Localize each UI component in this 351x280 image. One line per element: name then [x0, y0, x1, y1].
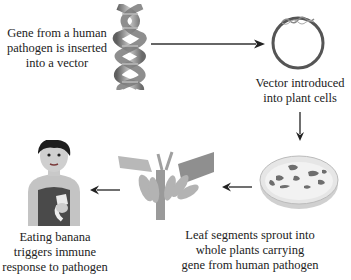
arrow-left-icon — [221, 181, 253, 193]
vector-label-line-1: Vector introduced — [250, 76, 350, 91]
person-label-line-3: response to pathogen — [0, 260, 110, 275]
arrow-right-icon — [150, 38, 266, 50]
plant-label: Leaf segments sprout into whole plants c… — [160, 228, 340, 273]
gene-label-line-1: Gene from a human — [4, 26, 110, 41]
petri-dish-icon — [258, 152, 340, 212]
dna-helix-icon — [112, 4, 148, 90]
person-eating-banana-icon — [18, 140, 90, 226]
plasmid-icon — [268, 10, 328, 72]
plant-label-line-3: gene from human pathogen — [160, 258, 340, 273]
vector-label: Vector introduced into plant cells — [250, 76, 350, 106]
vector-label-line-2: into plant cells — [250, 91, 350, 106]
plant-label-line-1: Leaf segments sprout into — [160, 228, 340, 243]
gene-label-line-2: pathogen is inserted — [4, 41, 110, 56]
plant-label-line-2: whole plants carrying — [160, 243, 340, 258]
person-label: Eating banana triggers immune response t… — [0, 230, 110, 275]
person-label-line-1: Eating banana — [0, 230, 110, 245]
person-label-line-2: triggers immune — [0, 245, 110, 260]
gene-label: Gene from a human pathogen is inserted i… — [4, 26, 110, 71]
arrow-down-icon — [295, 112, 305, 142]
gene-label-line-3: into a vector — [4, 56, 110, 71]
arrow-left-icon — [89, 184, 121, 196]
banana-plant-icon — [118, 150, 214, 220]
